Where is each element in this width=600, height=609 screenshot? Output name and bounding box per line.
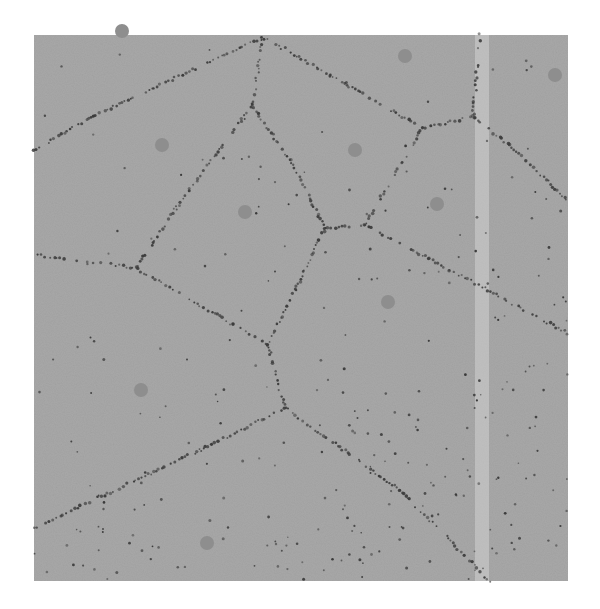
site-point xyxy=(381,295,395,309)
site-point xyxy=(155,138,169,152)
site-point xyxy=(348,143,362,157)
vertical-streak xyxy=(475,35,489,581)
site-point xyxy=(398,49,412,63)
site-point xyxy=(238,205,252,219)
site-point xyxy=(548,68,562,82)
site-point xyxy=(134,383,148,397)
site-point xyxy=(200,536,214,550)
voronoi-diagram xyxy=(0,0,600,609)
site-point xyxy=(115,24,129,38)
site-point xyxy=(430,197,444,211)
